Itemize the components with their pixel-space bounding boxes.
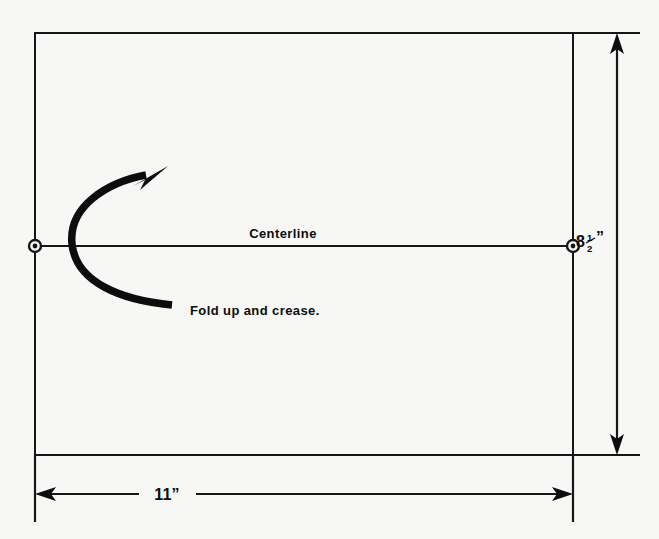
centerline-endpoint-left <box>29 240 41 252</box>
height-dimension-label: 8 1 2 ” <box>576 229 604 254</box>
height-label-unit: ” <box>596 229 604 246</box>
width-dimension <box>35 455 573 522</box>
paper-sheet-outline <box>35 33 573 455</box>
centerline-label: Centerline <box>249 226 317 241</box>
height-label-whole: 8 <box>576 233 585 250</box>
fold-arrow-icon <box>72 166 172 305</box>
diagram-canvas: Centerline Fold up and crease. 8 1 2 ” 1… <box>0 0 659 539</box>
fold-diagram: Centerline Fold up and crease. 8 1 2 ” 1… <box>0 0 659 539</box>
fold-instruction-label: Fold up and crease. <box>190 303 320 318</box>
height-label-denominator: 2 <box>587 243 592 254</box>
width-dimension-label: 11” <box>154 486 180 503</box>
